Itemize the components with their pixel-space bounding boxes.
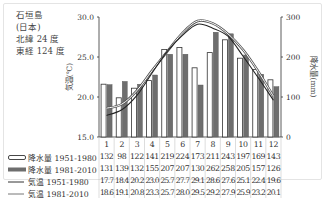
bar-precip-1951-1980 <box>238 58 243 137</box>
legend-filled-bar-icon <box>8 167 26 173</box>
table-cell: 211 <box>205 152 220 161</box>
table-cell: 141 <box>145 152 160 161</box>
table-cell: 173 <box>190 152 205 161</box>
table-cell: 207 <box>160 164 175 173</box>
month-label: 6 <box>175 140 190 149</box>
bar-precip-1951-1980 <box>101 84 106 137</box>
bar-precip-1951-1980 <box>177 47 182 137</box>
table-cell: 20.8 <box>129 188 144 197</box>
month-label: 12 <box>266 140 281 149</box>
table-cell: 23.3 <box>145 188 160 197</box>
bar-precip-1981-2010 <box>228 34 233 137</box>
table-cell: 130 <box>190 164 205 173</box>
bar-precip-1981-2010 <box>168 54 173 137</box>
bar-precip-1981-2010 <box>183 54 188 137</box>
table-cell: 29.2 <box>205 188 220 197</box>
bar-precip-1951-1980 <box>162 49 167 137</box>
table-cell: 18.4 <box>114 176 129 185</box>
table-cell: 18.6 <box>99 188 114 197</box>
legend-label: 降水量 1981-2010 <box>28 164 97 175</box>
table-cell: 19.1 <box>114 188 129 197</box>
month-label: 2 <box>114 140 129 149</box>
table-cell: 155 <box>145 164 160 173</box>
table-cell: 143 <box>266 152 281 161</box>
left-tick-label: 25.0 <box>77 53 94 62</box>
table-cell: 25.7 <box>160 176 175 185</box>
table-cell: 262 <box>205 164 220 173</box>
month-label: 11 <box>251 140 266 149</box>
table-cell: 126 <box>266 164 281 173</box>
month-label: 3 <box>129 140 144 149</box>
bar-precip-1981-2010 <box>153 75 158 137</box>
bar-precip-1981-2010 <box>244 55 249 137</box>
table-cell: 131 <box>99 164 114 173</box>
bar-precip-1981-2010 <box>274 87 279 137</box>
table-cell: 22.4 <box>251 176 266 185</box>
left-tick-label: 20.0 <box>77 93 94 102</box>
right-axis-title: 降水量(mm) <box>309 56 319 97</box>
right-tick-label: 100 <box>286 93 301 102</box>
table-cell: 132 <box>99 152 114 161</box>
table-cell: 20.2 <box>129 176 144 185</box>
table-cell: 17.7 <box>99 176 114 185</box>
month-label: 9 <box>220 140 235 149</box>
table-cell: 29.1 <box>190 176 205 185</box>
month-label: 4 <box>145 140 160 149</box>
table-cell: 197 <box>236 152 251 161</box>
legend-label: 気温 1981-2010 <box>28 188 89 199</box>
table-cell: 28.6 <box>205 176 220 185</box>
table-cell: 19.6 <box>266 176 281 185</box>
legend-label: 気温 1951-1980 <box>28 176 89 187</box>
table-cell: 205 <box>236 164 251 173</box>
bar-precip-1981-2010 <box>213 32 218 137</box>
bar-precip-1951-1980 <box>253 69 258 137</box>
month-label: 10 <box>236 140 251 149</box>
table-cell: 28.0 <box>175 188 190 197</box>
bar-precip-1981-2010 <box>107 85 112 137</box>
left-axis-title: 気温(℃) <box>64 63 74 91</box>
table-cell: 224 <box>175 152 190 161</box>
table-cell: 157 <box>251 164 266 173</box>
table-cell: 20.1 <box>266 188 281 197</box>
table-cell: 243 <box>220 152 235 161</box>
month-label: 7 <box>190 140 205 149</box>
table-cell: 25.1 <box>236 176 251 185</box>
table-cell: 207 <box>175 164 190 173</box>
bar-precip-1951-1980 <box>222 40 227 137</box>
right-tick-label: 200 <box>286 53 301 62</box>
table-cell: 29.5 <box>190 188 205 197</box>
table-cell: 169 <box>251 152 266 161</box>
bar-precip-1951-1980 <box>147 81 152 137</box>
legend-label: 降水量 1951-1980 <box>28 152 97 163</box>
month-label: 5 <box>160 140 175 149</box>
table-cell: 139 <box>114 164 129 173</box>
table-cell: 132 <box>129 164 144 173</box>
table-cell: 27.6 <box>220 176 235 185</box>
right-tick-label: 0 <box>286 133 291 142</box>
table-cell: 23.2 <box>251 188 266 197</box>
bar-precip-1981-2010 <box>259 74 264 137</box>
month-label: 1 <box>99 140 114 149</box>
table-cell: 27.9 <box>220 188 235 197</box>
legend-light-line-icon <box>8 191 26 197</box>
table-cell: 122 <box>129 152 144 161</box>
legend-dark-line-icon <box>8 179 26 185</box>
legend-open-bar-icon <box>8 155 26 161</box>
table-cell: 27.7 <box>175 176 190 185</box>
table-cell: 25.7 <box>160 188 175 197</box>
left-tick-label: 30.0 <box>77 13 94 22</box>
table-cell: 98 <box>114 152 129 161</box>
bar-precip-1951-1980 <box>207 53 212 137</box>
bar-precip-1951-1980 <box>192 68 197 137</box>
table-cell: 258 <box>220 164 235 173</box>
table-cell: 23.0 <box>145 176 160 185</box>
table-cell: 219 <box>160 152 175 161</box>
bar-precip-1981-2010 <box>198 85 203 137</box>
month-label: 8 <box>205 140 220 149</box>
table-cell: 25.9 <box>236 188 251 197</box>
left-tick-label: 15.0 <box>77 133 94 142</box>
right-tick-label: 300 <box>286 13 301 22</box>
